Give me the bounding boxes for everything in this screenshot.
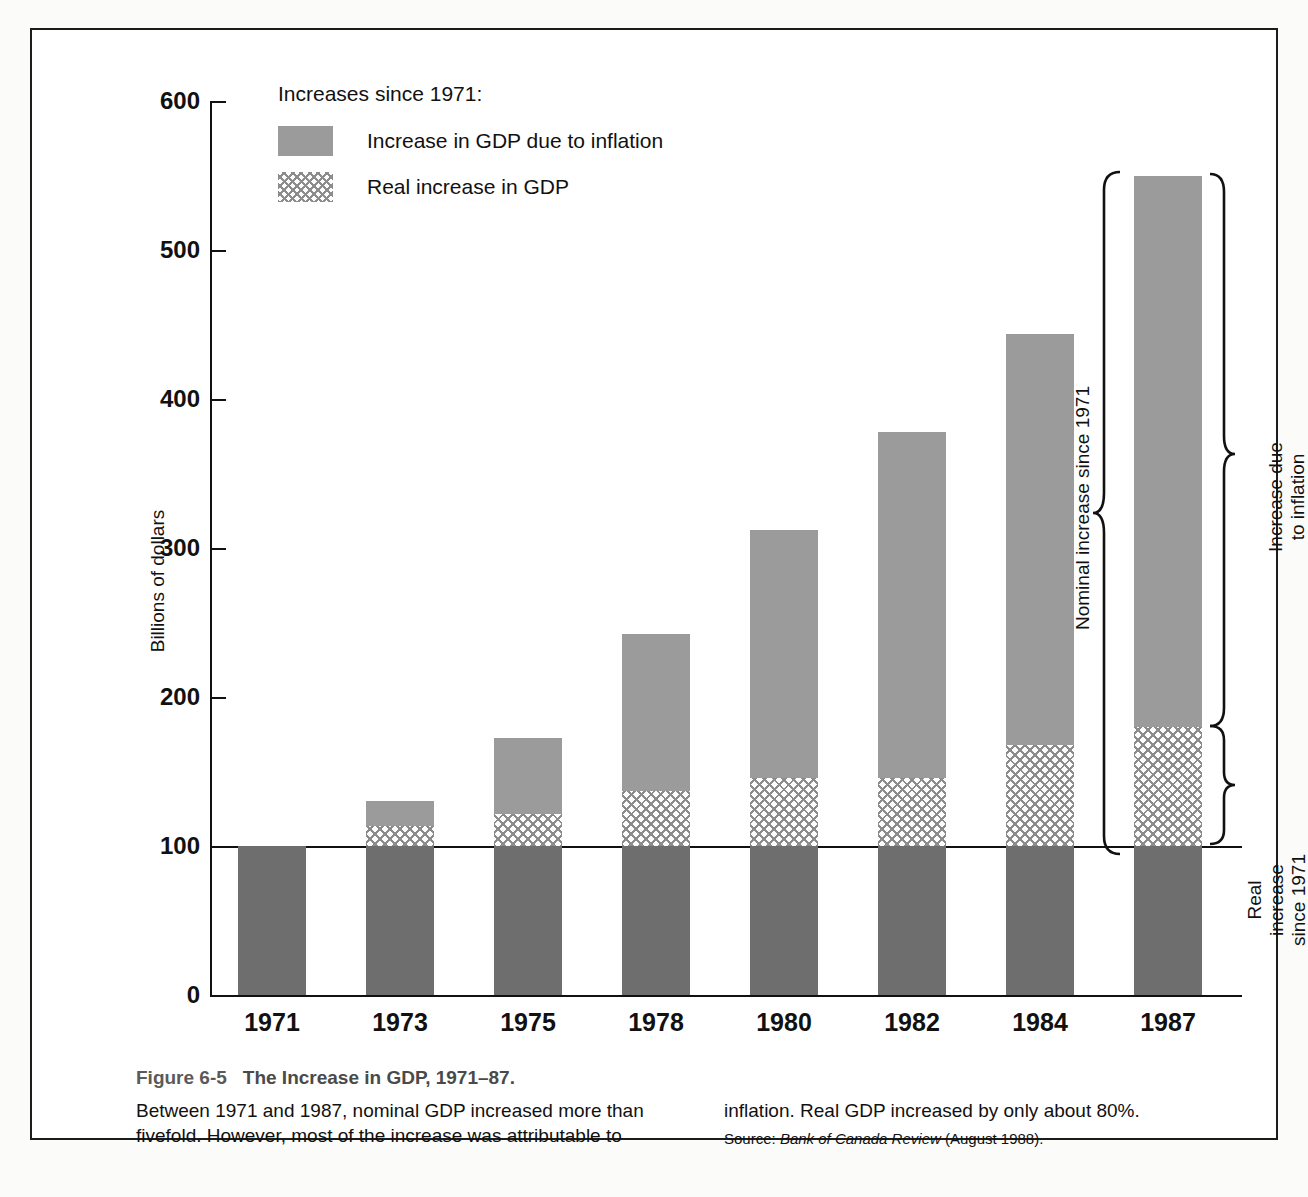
x-tick-label-1982: 1982	[847, 1008, 977, 1037]
figure-source-publication: Bank of Canada Review	[780, 1130, 941, 1147]
legend-item-inflation: Increase in GDP due to inflation	[278, 126, 663, 156]
baseline-100-line	[210, 846, 1242, 848]
bar-1973-real	[366, 826, 434, 846]
y-axis-title-wrap: Billions of dollars	[128, 460, 158, 710]
y-tick-600	[212, 101, 226, 103]
legend-title: Increases since 1971:	[278, 82, 663, 106]
bar-1980-real	[750, 778, 818, 846]
annotation-inflation-line1: Increase due	[1265, 397, 1287, 597]
bar-1980-inflation	[750, 530, 818, 778]
y-tick-200	[212, 697, 226, 699]
bar-1975-inflation	[494, 738, 562, 814]
bar-1978-base	[622, 846, 690, 995]
y-tick-label-600: 600	[130, 87, 200, 115]
bar-1984-real	[1006, 745, 1074, 846]
x-tick-label-1980: 1980	[719, 1008, 849, 1037]
bar-1982-inflation	[878, 432, 946, 778]
legend-label-real: Real increase in GDP	[367, 175, 569, 199]
bar-1971[interactable]	[238, 101, 306, 995]
annotation-real-increase-since-1971: Real increase since 1971	[1244, 815, 1308, 985]
x-tick-label-1978: 1978	[591, 1008, 721, 1037]
annotation-increase-due-to-inflation: Increase due to inflation	[1265, 397, 1308, 597]
bar-1980-base	[750, 846, 818, 995]
bar-1973-inflation	[366, 801, 434, 826]
legend-item-real: Real increase in GDP	[278, 172, 663, 202]
bar-1973[interactable]	[366, 101, 434, 995]
annotation-nominal-increase: Nominal increase since 1971	[1072, 386, 1094, 630]
figure-caption-column-left: Between 1971 and 1987, nominal GDP incre…	[136, 1098, 676, 1149]
figure-source-prefix: Source:	[724, 1130, 776, 1147]
chart-plot-area: 600 500 400 300 200 100 0 Billions of do…	[32, 30, 1280, 1142]
bar-1984-base	[1006, 846, 1074, 995]
bar-1980[interactable]	[750, 101, 818, 995]
legend-swatch-inflation	[278, 126, 333, 156]
bar-1984-inflation	[1006, 334, 1074, 745]
bar-1982[interactable]	[878, 101, 946, 995]
figure-caption-body-right: inflation. Real GDP increased by only ab…	[724, 1098, 1264, 1123]
bar-1978[interactable]	[622, 101, 690, 995]
bar-1978-inflation	[622, 634, 690, 791]
bar-1987[interactable]	[1134, 101, 1202, 995]
annotation-inflation-line2: to inflation	[1287, 397, 1308, 597]
y-axis-title: Billions of dollars	[147, 456, 169, 706]
annotation-real-line2: increase	[1266, 815, 1288, 985]
bar-1987-base	[1134, 846, 1202, 995]
x-tick-label-1971: 1971	[207, 1008, 337, 1037]
bar-1975[interactable]	[494, 101, 562, 995]
y-tick-0	[212, 995, 226, 997]
figure-caption-column-right: inflation. Real GDP increased by only ab…	[724, 1098, 1264, 1149]
bar-1987-inflation	[1134, 176, 1202, 727]
bar-1978-real	[622, 791, 690, 846]
annotation-real-line1: Real	[1244, 815, 1266, 985]
figure-caption-title: Figure 6-5The Increase in GDP, 1971–87.	[136, 1067, 1266, 1089]
y-tick-300	[212, 548, 226, 550]
y-tick-label-100: 100	[130, 832, 200, 860]
y-tick-500	[212, 250, 226, 252]
y-tick-100	[212, 846, 226, 848]
figure-frame: 600 500 400 300 200 100 0 Billions of do…	[30, 28, 1278, 1140]
y-tick-label-400: 400	[130, 385, 200, 413]
annotation-real-line3: since 1971	[1288, 815, 1308, 985]
y-tick-label-500: 500	[130, 236, 200, 264]
bar-1982-real	[878, 778, 946, 846]
figure-caption-columns: Between 1971 and 1987, nominal GDP incre…	[136, 1098, 1266, 1149]
figure-source-suffix: (August 1988).	[945, 1130, 1043, 1147]
figure-caption: Figure 6-5The Increase in GDP, 1971–87. …	[136, 1067, 1266, 1149]
y-tick-400	[212, 399, 226, 401]
bar-1984[interactable]	[1006, 101, 1074, 995]
x-tick-label-1973: 1973	[335, 1008, 465, 1037]
bar-1975-base	[494, 846, 562, 995]
bar-1987-real	[1134, 727, 1202, 846]
bar-1975-real	[494, 814, 562, 846]
x-tick-label-1987: 1987	[1103, 1008, 1233, 1037]
figure-source: Source: Bank of Canada Review (August 19…	[724, 1130, 1264, 1147]
legend-label-inflation: Increase in GDP due to inflation	[367, 129, 663, 153]
bar-1982-base	[878, 846, 946, 995]
brace-real-increase-since-1971	[1206, 722, 1236, 852]
figure-title-text: The Increase in GDP, 1971–87.	[243, 1067, 515, 1088]
bar-1973-base	[366, 846, 434, 995]
brace-increase-due-to-inflation	[1206, 170, 1236, 732]
figure-caption-body-left: Between 1971 and 1987, nominal GDP incre…	[136, 1098, 676, 1149]
x-axis-line	[210, 995, 1242, 997]
bar-1971-base	[238, 846, 306, 995]
x-tick-label-1984: 1984	[975, 1008, 1105, 1037]
chart-legend: Increases since 1971: Increase in GDP du…	[278, 82, 663, 218]
brace-nominal-increase	[1090, 168, 1124, 858]
figure-number: Figure 6-5	[136, 1067, 227, 1088]
y-tick-label-0: 0	[130, 981, 200, 1009]
legend-swatch-real	[278, 172, 333, 202]
x-tick-label-1975: 1975	[463, 1008, 593, 1037]
